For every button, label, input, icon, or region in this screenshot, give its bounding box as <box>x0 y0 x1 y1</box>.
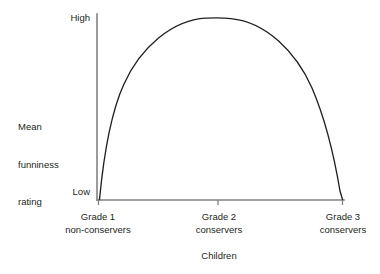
x-tick-label-grade-2: Grade 2 conservers <box>163 210 275 236</box>
y-axis-title-line-1: Mean <box>18 121 90 134</box>
x-axis-title: Children <box>163 250 275 263</box>
y-axis-title-line-2: funniness <box>18 159 90 172</box>
funniness-rating-curve <box>100 18 343 200</box>
x-tick-label-grade-3-bottom: conservers <box>288 223 380 236</box>
x-tick-label-grade-3-top: Grade 3 <box>288 210 380 223</box>
y-axis-title-line-3: rating <box>18 196 90 209</box>
x-tick-label-grade-1: Grade 1 non-conservers <box>42 210 154 236</box>
x-tick-label-grade-2-top: Grade 2 <box>163 210 275 223</box>
x-tick-label-grade-1-bottom: non-conservers <box>42 223 154 236</box>
x-tick-label-grade-1-top: Grade 1 <box>42 210 154 223</box>
y-axis-tick-high: High <box>46 12 90 25</box>
x-tick-label-grade-3: Grade 3 conservers <box>288 210 380 236</box>
chart-figure: High Low Mean funniness rating Grade 1 n… <box>0 0 380 274</box>
x-tick-label-grade-2-bottom: conservers <box>163 223 275 236</box>
